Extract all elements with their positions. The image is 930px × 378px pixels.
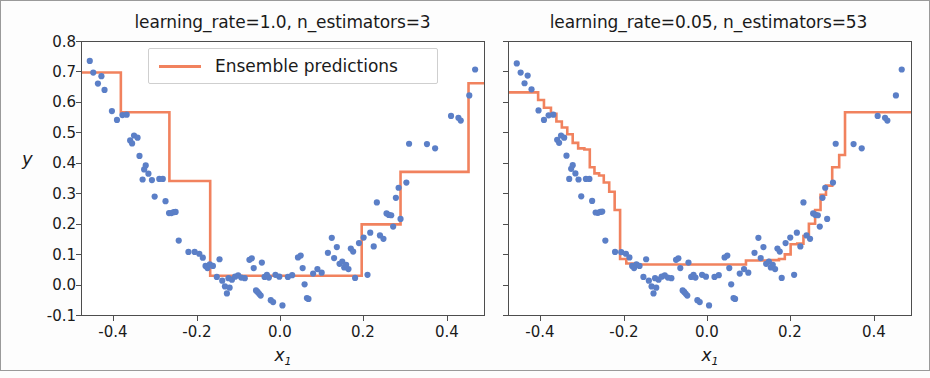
- data-point: [760, 244, 766, 250]
- x-tick-mark: [707, 316, 708, 321]
- data-point: [787, 234, 793, 240]
- data-point: [350, 249, 356, 255]
- data-point: [575, 176, 581, 182]
- data-point: [819, 195, 825, 201]
- data-point: [305, 296, 311, 302]
- data-point: [152, 194, 158, 200]
- data-point: [525, 73, 531, 79]
- y-ticklabel-0.5: 0.5: [34, 124, 76, 142]
- y-axis-label: y: [22, 148, 33, 169]
- data-point: [251, 265, 257, 271]
- data-point: [266, 274, 272, 280]
- data-point: [331, 255, 337, 261]
- data-point: [403, 179, 409, 185]
- data-point: [653, 285, 659, 291]
- panel-left-title: learning_rate=1.0, n_estimators=3: [80, 12, 485, 32]
- data-point: [356, 240, 362, 246]
- data-point: [432, 145, 438, 151]
- panel-right-title: learning_rate=0.05, n_estimators=53: [496, 12, 921, 32]
- y-ticklabel--0.1: -0.1: [30, 307, 76, 325]
- data-point: [726, 265, 732, 271]
- data-point: [466, 92, 472, 98]
- data-point: [310, 271, 316, 277]
- data-point: [817, 223, 823, 229]
- panel-right: learning_rate=0.05, n_estimators=53 -0.4…: [486, 0, 930, 378]
- data-point: [566, 176, 572, 182]
- data-point: [374, 199, 380, 205]
- data-point: [650, 290, 656, 296]
- x-ticklabel-0.4: 0.4: [844, 323, 904, 341]
- x-tick-mark: [540, 316, 541, 321]
- data-point: [249, 255, 255, 261]
- data-point: [448, 113, 454, 119]
- data-point: [134, 135, 140, 141]
- data-point: [90, 69, 96, 75]
- data-point: [541, 117, 547, 123]
- data-point: [561, 135, 567, 141]
- x-tick-mark: [447, 316, 448, 321]
- data-point: [301, 281, 307, 287]
- data-point: [173, 209, 179, 215]
- data-point: [371, 243, 377, 249]
- data-point: [556, 140, 562, 146]
- data-point: [227, 285, 233, 291]
- x-axis-label-subscript: 1: [285, 355, 292, 368]
- data-point: [160, 176, 166, 182]
- data-point: [136, 153, 142, 159]
- data-point: [185, 249, 191, 255]
- y-ticklabel-0.8: 0.8: [34, 33, 76, 51]
- data-point: [646, 278, 652, 284]
- data-point: [129, 140, 135, 146]
- data-point: [668, 275, 674, 281]
- x-ticklabel--0.2: -0.2: [167, 323, 227, 341]
- x-ticklabel-0.0: 0.0: [250, 323, 310, 341]
- panel-left: learning_rate=1.0, n_estimators=3 y 0.8 …: [0, 0, 486, 378]
- data-point: [472, 66, 478, 72]
- plot-area-right: [508, 41, 912, 316]
- data-point: [636, 263, 642, 269]
- x-axis-label-text: x: [274, 345, 284, 365]
- data-point: [797, 243, 803, 249]
- x-axis-label-right: x1: [640, 345, 780, 368]
- plot-svg-right: [509, 42, 912, 316]
- data-point: [319, 270, 325, 276]
- legend-line-swatch: [159, 65, 201, 68]
- data-point: [626, 254, 632, 260]
- x-axis-label-left: x1: [213, 345, 353, 368]
- data-point: [800, 199, 806, 205]
- y-axis-label-text: y: [22, 148, 33, 169]
- data-point: [703, 274, 709, 280]
- data-point: [563, 153, 569, 159]
- data-point: [276, 274, 282, 280]
- data-point: [334, 244, 340, 250]
- data-point: [329, 235, 335, 241]
- data-point: [777, 249, 783, 255]
- x-ticklabel--0.4: -0.4: [510, 323, 570, 341]
- data-point: [772, 266, 778, 272]
- data-point: [570, 162, 576, 168]
- data-point: [850, 141, 856, 147]
- data-point: [692, 274, 698, 280]
- figure-canvas: learning_rate=1.0, n_estimators=3 y 0.8 …: [0, 0, 930, 378]
- data-point: [345, 266, 351, 272]
- data-point: [706, 302, 712, 308]
- data-point: [388, 212, 394, 218]
- data-point: [782, 240, 788, 246]
- data-point: [824, 216, 830, 222]
- data-point: [424, 141, 430, 147]
- data-point: [406, 141, 412, 147]
- data-point: [875, 113, 881, 119]
- data-point: [716, 272, 722, 278]
- data-point: [794, 230, 800, 236]
- data-point: [550, 112, 556, 118]
- data-point: [724, 252, 730, 258]
- data-point: [685, 260, 691, 266]
- data-point: [675, 255, 681, 261]
- data-point: [732, 296, 738, 302]
- data-point: [589, 198, 595, 204]
- data-point: [352, 275, 358, 281]
- data-point: [101, 87, 107, 93]
- data-point: [640, 274, 646, 280]
- data-point: [380, 236, 386, 242]
- data-point: [140, 176, 146, 182]
